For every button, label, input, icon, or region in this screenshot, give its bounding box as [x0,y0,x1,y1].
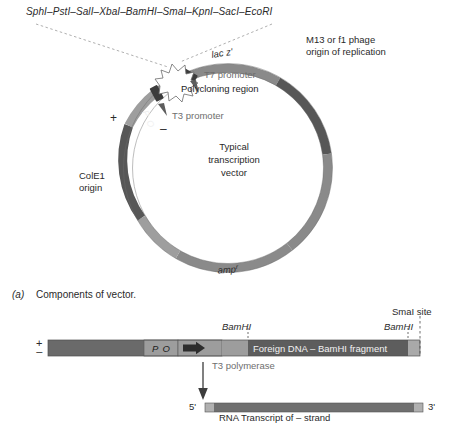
panel-a-caption-text: Components of vector. [36,289,136,301]
t3-promoter-label: T3 promoter [172,110,224,122]
polycloning-region-label: Polycloning region [181,83,259,95]
m13-origin-label: M13 or f1 phage origin of replication [306,34,386,58]
po-box-label: P O [152,343,171,355]
t3-polymerase-label: T3 polymerase [212,360,275,372]
cole1-origin-line1: ColE1 [79,170,105,182]
three-prime-label: 3' [428,401,435,413]
rna-transcript-bar [205,403,423,412]
foreign-dna-label: Foreign DNA – BamHI fragment [253,343,387,355]
bamhi-left-label: BamHI [222,321,251,333]
lacz-label: lac z' [211,46,235,60]
amp-label: ampr [217,263,239,276]
t3-polymerase-arrow [198,362,208,400]
transcript-3prime-cap [414,403,423,412]
leader-lines [36,24,272,67]
m13-origin-line1: M13 or f1 phage [306,34,386,46]
t7-promoter-label: T7 promoter [204,69,256,81]
m13-origin-line2: origin of replication [306,46,386,58]
ring-plus-sign: + [110,113,117,125]
po-ring-label: P O [140,109,157,130]
five-prime-label: 5' [189,401,196,413]
vector-center-line2: transcription [199,153,269,166]
cole1-origin-line2: origin [79,182,105,194]
transcript-5prime-cap [205,403,214,412]
ring-minus-sign: – [160,124,167,136]
cole1-origin-label: ColE1 origin [79,170,105,194]
bamhi-right-label: BamHI [384,321,413,333]
vector-center-label: Typical transcription vector [199,140,269,179]
rna-transcript-label: RNA Transcript of – strand [219,412,330,424]
vector-left-segment [48,340,144,356]
panel-a-caption-label: (a) [12,289,24,301]
vector-center-line3: vector [199,166,269,179]
smai-site-label: SmaI site [392,306,432,318]
linker-segment [222,340,248,356]
right-cap-segment [408,340,420,356]
strand-polarity-marks: + – [36,339,42,355]
strand-minus: – [36,347,42,355]
vector-center-line1: Typical [199,140,269,153]
